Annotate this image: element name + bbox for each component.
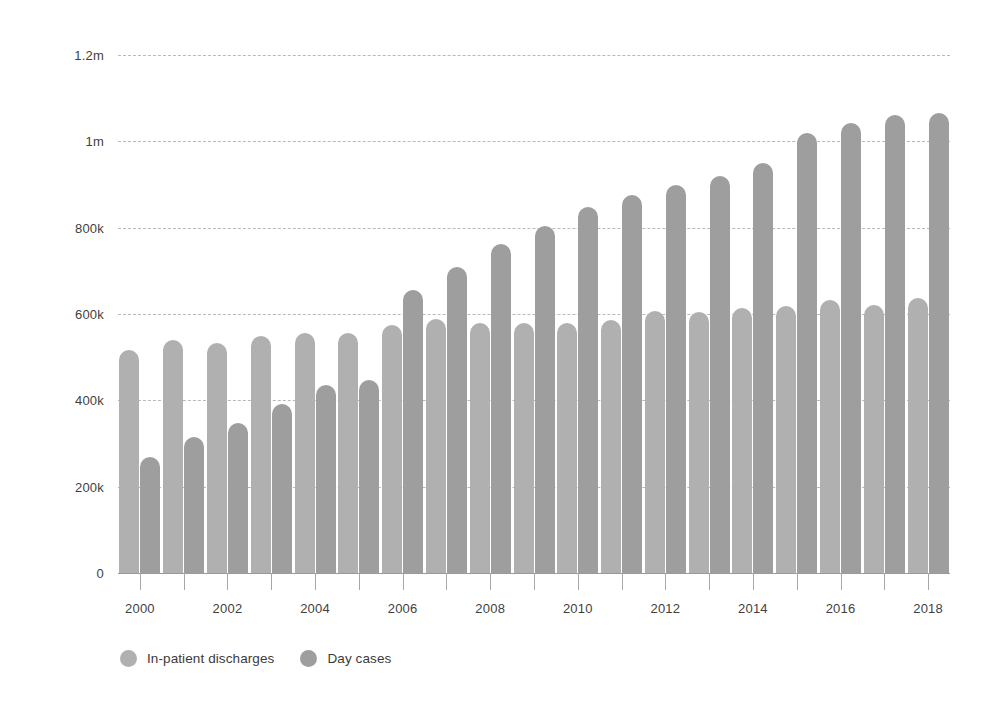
bar-group-2013 xyxy=(689,55,730,573)
bar-group-2001 xyxy=(163,55,204,573)
x-tick-label-2002: 2002 xyxy=(213,601,243,616)
bar-inpatient-2015 xyxy=(776,306,796,573)
bar-inpatient-2004 xyxy=(295,333,315,573)
y-tick-label-800k: 800k xyxy=(14,220,104,235)
x-tick-2005 xyxy=(359,573,360,590)
bar-group-2009 xyxy=(514,55,555,573)
bar-group-2005 xyxy=(338,55,379,573)
x-tick-2018 xyxy=(928,573,929,590)
legend-swatch-daycases xyxy=(300,650,317,667)
x-tick-label-2018: 2018 xyxy=(913,601,943,616)
x-tick-label-2006: 2006 xyxy=(388,601,418,616)
bar-group-2012 xyxy=(645,55,686,573)
y-tick-label-1.2m: 1.2m xyxy=(14,48,104,63)
bar-daycases-2018 xyxy=(929,113,949,573)
x-tick-2008 xyxy=(490,573,491,590)
x-tick-2003 xyxy=(271,573,272,590)
bar-group-2002 xyxy=(207,55,248,573)
bar-daycases-2006 xyxy=(403,290,423,573)
bar-inpatient-2017 xyxy=(864,305,884,573)
bar-daycases-2011 xyxy=(622,195,642,573)
bar-daycases-2002 xyxy=(228,423,248,573)
bar-group-2014 xyxy=(732,55,773,573)
x-tick-label-2016: 2016 xyxy=(826,601,856,616)
legend-label-inpatient: In-patient discharges xyxy=(147,651,274,666)
x-tick-2016 xyxy=(841,573,842,590)
bar-group-2010 xyxy=(557,55,598,573)
x-tick-2012 xyxy=(665,573,666,590)
bar-group-2017 xyxy=(864,55,905,573)
bar-daycases-2007 xyxy=(447,267,467,573)
bar-daycases-2000 xyxy=(140,457,160,573)
x-tick-2014 xyxy=(753,573,754,590)
bar-daycases-2012 xyxy=(666,185,686,574)
bar-daycases-2013 xyxy=(710,176,730,573)
bar-inpatient-2007 xyxy=(426,319,446,573)
legend-swatch-inpatient xyxy=(120,650,137,667)
plot-area xyxy=(118,55,950,573)
bar-daycases-2016 xyxy=(841,123,861,573)
x-tick-2006 xyxy=(403,573,404,590)
bar-inpatient-2000 xyxy=(119,350,139,573)
x-tick-label-2000: 2000 xyxy=(125,601,155,616)
x-tick-2013 xyxy=(709,573,710,590)
bar-daycases-2015 xyxy=(797,133,817,573)
bar-chart: 0200k400k600k800k1m1.2m 2000200220042006… xyxy=(0,0,1000,714)
bar-inpatient-2014 xyxy=(732,308,752,573)
x-tick-2001 xyxy=(184,573,185,590)
y-tick-label-400k: 400k xyxy=(14,393,104,408)
y-tick-label-1m: 1m xyxy=(14,134,104,149)
x-tick-label-2010: 2010 xyxy=(563,601,593,616)
x-tick-2011 xyxy=(622,573,623,590)
bar-group-2016 xyxy=(820,55,861,573)
x-tick-2000 xyxy=(140,573,141,590)
x-tick-2007 xyxy=(446,573,447,590)
bar-group-2011 xyxy=(601,55,642,573)
x-tick-2002 xyxy=(227,573,228,590)
bar-daycases-2010 xyxy=(578,207,598,573)
bar-inpatient-2011 xyxy=(601,320,621,573)
y-tick-label-200k: 200k xyxy=(14,479,104,494)
x-tick-label-2008: 2008 xyxy=(475,601,505,616)
bar-group-2007 xyxy=(426,55,467,573)
bar-daycases-2014 xyxy=(753,163,773,573)
x-tick-label-2014: 2014 xyxy=(738,601,768,616)
bar-group-2004 xyxy=(295,55,336,573)
x-tick-2009 xyxy=(534,573,535,590)
y-tick-label-0: 0 xyxy=(14,566,104,581)
x-tick-2010 xyxy=(578,573,579,590)
x-tick-2015 xyxy=(797,573,798,590)
x-axis: 2000200220042006200820102012201420162018 xyxy=(118,573,950,633)
chart-legend: In-patient dischargesDay cases xyxy=(120,650,391,667)
bar-daycases-2017 xyxy=(885,115,905,573)
bar-daycases-2005 xyxy=(359,380,379,573)
bar-inpatient-2018 xyxy=(908,298,928,573)
legend-item-daycases[interactable]: Day cases xyxy=(300,650,391,667)
bar-group-2003 xyxy=(251,55,292,573)
bar-group-2006 xyxy=(382,55,423,573)
bar-group-2015 xyxy=(776,55,817,573)
bar-inpatient-2006 xyxy=(382,325,402,573)
x-tick-label-2004: 2004 xyxy=(300,601,330,616)
bar-daycases-2008 xyxy=(491,244,511,573)
y-axis: 0200k400k600k800k1m1.2m xyxy=(0,0,104,714)
bar-inpatient-2016 xyxy=(820,300,840,573)
bar-daycases-2003 xyxy=(272,404,292,573)
y-tick-label-600k: 600k xyxy=(14,307,104,322)
bar-group-2000 xyxy=(119,55,160,573)
bar-daycases-2001 xyxy=(184,437,204,573)
bar-inpatient-2008 xyxy=(470,323,490,573)
bar-inpatient-2003 xyxy=(251,336,271,573)
legend-item-inpatient[interactable]: In-patient discharges xyxy=(120,650,274,667)
bar-inpatient-2005 xyxy=(338,333,358,573)
bar-group-2018 xyxy=(908,55,949,573)
x-tick-2017 xyxy=(884,573,885,590)
bar-group-2008 xyxy=(470,55,511,573)
bar-daycases-2004 xyxy=(316,385,336,573)
x-tick-label-2012: 2012 xyxy=(650,601,680,616)
bar-inpatient-2013 xyxy=(689,312,709,573)
bar-inpatient-2002 xyxy=(207,343,227,573)
bar-daycases-2009 xyxy=(535,226,555,573)
legend-label-daycases: Day cases xyxy=(327,651,391,666)
bar-inpatient-2010 xyxy=(557,323,577,573)
